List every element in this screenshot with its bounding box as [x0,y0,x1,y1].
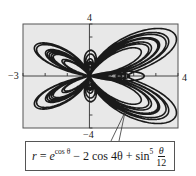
x-max-label: 4 [182,73,187,83]
formula-term2: − 2 cos 4θ + sin [70,149,149,164]
formula-fraction: θ 12 [156,145,166,168]
frac-numerator: θ [158,145,165,157]
formula-power: 5 [150,147,154,156]
formula-eq: = [37,149,50,164]
x-min-label: −3 [8,71,19,81]
formula-exponent: cos θ [55,147,70,156]
y-min-label: −4 [83,130,94,140]
equation-label: r = e cos θ − 2 cos 4θ + sin 5 θ 12 [25,141,175,171]
y-max-label: 4 [87,13,92,23]
frac-denominator: 12 [156,157,166,168]
